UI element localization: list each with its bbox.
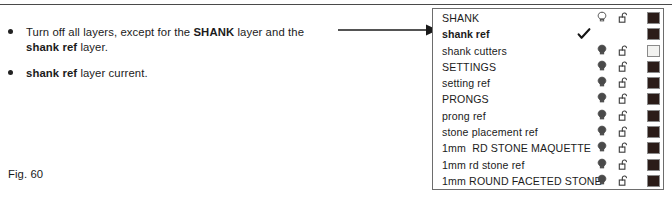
lightbulb-on-icon[interactable]	[594, 75, 610, 91]
layer-row[interactable]: shank ref	[433, 26, 663, 42]
layer-row[interactable]: SHANK	[433, 10, 663, 26]
layer-color-swatch[interactable]	[647, 93, 660, 105]
layer-row[interactable]: 1mm RD STONE MAQUETTE	[433, 140, 663, 156]
layer-row[interactable]: prong ref	[433, 108, 663, 124]
layer-color-swatch[interactable]	[647, 77, 660, 89]
padlock-open-icon[interactable]	[616, 108, 632, 124]
layer-row[interactable]: SETTINGS	[433, 59, 663, 75]
layer-color-swatch[interactable]	[647, 126, 660, 138]
instruction-panel: Turn off all layers, except for the SHAN…	[0, 16, 330, 197]
instruction-bullet-text: Turn off all layers, except for the SHAN…	[26, 25, 326, 54]
layer-row[interactable]: PRONGS	[433, 91, 663, 107]
layer-row[interactable]: 1mm ROUND FACETED STONE	[433, 173, 663, 189]
lightbulb-on-icon[interactable]	[594, 124, 610, 140]
lightbulb-off-icon[interactable]	[594, 10, 610, 26]
current-layer-check-icon	[576, 26, 592, 42]
layer-color-swatch[interactable]	[647, 175, 660, 187]
layer-name-label: prong ref	[442, 108, 486, 124]
lightbulb-on-icon[interactable]	[594, 108, 610, 124]
instruction-bullet-turn-off-layers: Turn off all layers, except for the SHAN…	[8, 25, 326, 54]
padlock-open-icon[interactable]	[616, 43, 632, 59]
layer-list[interactable]: SHANKshank refshank cuttersSETTINGSsetti…	[433, 10, 663, 189]
padlock-open-icon[interactable]	[616, 91, 632, 107]
arrow-right-icon	[338, 22, 438, 38]
lightbulb-on-icon[interactable]	[594, 173, 610, 189]
layer-row[interactable]: stone placement ref	[433, 124, 663, 140]
lightbulb-on-icon[interactable]	[594, 43, 610, 59]
layer-color-swatch[interactable]	[647, 61, 660, 73]
layer-name-label: shank ref	[442, 26, 490, 42]
instruction-bullet-text: shank ref layer current.	[26, 66, 326, 81]
lightbulb-on-icon[interactable]	[594, 91, 610, 107]
layer-name-label: setting ref	[442, 75, 490, 91]
layer-color-swatch[interactable]	[647, 28, 660, 40]
layer-row[interactable]: 1mm rd stone ref	[433, 157, 663, 173]
padlock-open-icon[interactable]	[616, 157, 632, 173]
layer-name-label: stone placement ref	[442, 124, 538, 140]
padlock-open-icon[interactable]	[616, 75, 632, 91]
layer-name-label: 1mm RD STONE MAQUETTE	[442, 140, 591, 156]
layer-color-swatch[interactable]	[647, 159, 660, 171]
layer-color-swatch[interactable]	[647, 12, 660, 24]
layer-name-label: PRONGS	[442, 91, 489, 107]
layer-name-label: SETTINGS	[442, 59, 496, 75]
bullet-dot-icon	[8, 70, 13, 75]
padlock-open-icon[interactable]	[616, 10, 632, 26]
layer-name-label: 1mm rd stone ref	[442, 157, 524, 173]
padlock-open-icon[interactable]	[616, 140, 632, 156]
lightbulb-on-icon[interactable]	[594, 140, 610, 156]
instruction-bullet-current-layer: shank ref layer current.	[8, 66, 326, 81]
lightbulb-on-icon[interactable]	[594, 157, 610, 173]
lightbulb-on-icon[interactable]	[594, 59, 610, 75]
layer-name-label: 1mm ROUND FACETED STONE	[442, 173, 602, 189]
layer-row[interactable]: shank cutters	[433, 43, 663, 59]
figure-caption: Fig. 60	[8, 167, 43, 181]
layer-color-swatch[interactable]	[647, 142, 660, 154]
layer-palette[interactable]: SHANKshank refshank cuttersSETTINGSsetti…	[432, 8, 664, 190]
bullet-dot-icon	[8, 29, 13, 34]
layer-color-swatch[interactable]	[647, 110, 660, 122]
layer-name-label: shank cutters	[442, 43, 507, 59]
layer-row[interactable]: setting ref	[433, 75, 663, 91]
layer-color-swatch[interactable]	[647, 45, 660, 57]
padlock-open-icon[interactable]	[616, 59, 632, 75]
page-top-rule	[0, 4, 672, 5]
padlock-open-icon[interactable]	[616, 173, 632, 189]
padlock-open-icon[interactable]	[616, 124, 632, 140]
layer-name-label: SHANK	[442, 10, 479, 26]
